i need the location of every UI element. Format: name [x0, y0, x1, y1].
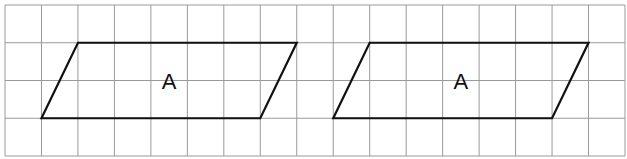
shape-label-right: A — [454, 71, 469, 93]
shape-label-left: A — [162, 71, 177, 93]
square-grid — [5, 5, 625, 156]
grid-diagram — [0, 0, 627, 159]
